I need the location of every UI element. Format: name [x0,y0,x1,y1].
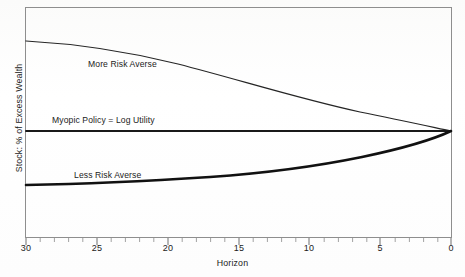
x-tick-label-20: 20 [163,243,173,253]
x-tick-label-0: 0 [448,243,453,253]
plot-area [0,0,465,277]
chart-figure: More Risk Averse Myopic Policy = Log Uti… [0,0,465,277]
x-tick-label-15: 15 [234,243,244,253]
x-tick-label-30: 30 [21,243,31,253]
x-tick-label-5: 5 [377,243,382,253]
series-label-more-risk-averse: More Risk Averse [88,59,157,69]
x-tick-label-25: 25 [92,243,102,253]
series-label-less-risk-averse: Less Risk Averse [74,170,141,180]
x-tick-label-10: 10 [304,243,314,253]
y-axis-title: Stock: % of Excess Wealth [14,33,24,203]
series-label-myopic-policy: Myopic Policy = Log Utility [52,115,155,125]
x-axis-title: Horizon [0,258,465,268]
